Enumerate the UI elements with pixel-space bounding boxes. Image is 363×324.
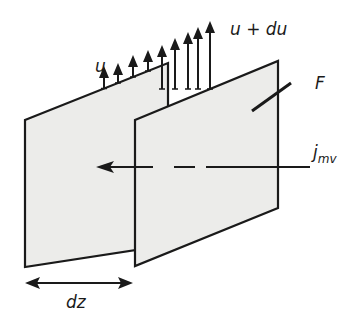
label-j-subscript: mv bbox=[318, 152, 338, 166]
velocity-arrow-head bbox=[193, 27, 203, 39]
velocity-arrow-head bbox=[143, 50, 153, 62]
dz-dimension-arrow bbox=[25, 277, 133, 289]
label-dz: dz bbox=[66, 292, 87, 312]
velocity-arrow-head bbox=[183, 32, 193, 44]
label-F: F bbox=[315, 73, 325, 93]
label-u: u bbox=[95, 56, 106, 76]
velocity-arrow-head bbox=[205, 21, 215, 33]
velocity-arrow-head bbox=[128, 55, 138, 67]
velocity-arrow-head bbox=[170, 38, 180, 50]
diagram-canvas: u u + du F jmv dz bbox=[0, 0, 363, 324]
velocity-arrow-head bbox=[113, 63, 123, 75]
label-j-mv: jmv bbox=[311, 142, 337, 166]
label-u-plus-du: u + du bbox=[230, 19, 288, 39]
velocity-arrow-head bbox=[157, 45, 167, 57]
